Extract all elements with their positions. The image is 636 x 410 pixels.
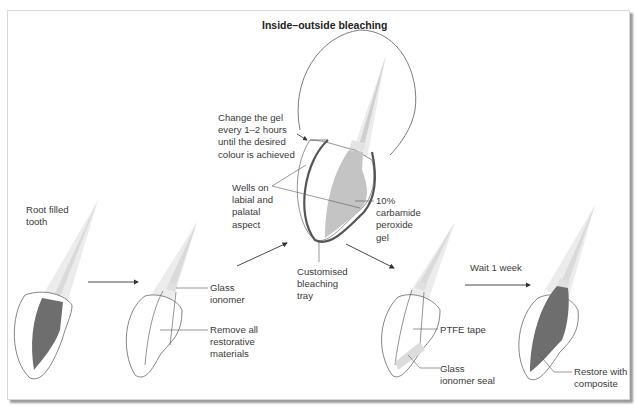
tooth-4-sealed xyxy=(382,222,455,377)
arrow-step-2 xyxy=(237,243,287,266)
label-root-filled-tooth: Root filled tooth xyxy=(26,204,69,228)
arrow-step-3 xyxy=(346,244,394,268)
label-ptfe-tape: PTFE tape xyxy=(440,324,486,336)
label-remove-restorative: Remove all restorative materials xyxy=(210,324,258,361)
label-carbamide-gel: 10% carbamide peroxide gel xyxy=(376,195,421,244)
label-change-gel: Change the gel every 1–2 hours until the… xyxy=(218,112,295,161)
tooth-2-prepared xyxy=(126,222,208,377)
label-glass-ionomer-seal: Glass ionomer seal xyxy=(440,363,495,387)
diagram-artwork xyxy=(0,0,636,410)
label-wait: Wait 1 week xyxy=(470,262,522,274)
label-glass-ionomer: Glass ionomer xyxy=(210,282,245,306)
label-customised-tray: Customised bleaching tray xyxy=(297,266,348,303)
tooth-5-restored xyxy=(519,205,595,380)
figure-title: Inside–outside bleaching xyxy=(262,19,387,31)
label-restore-composite: Restore with composite xyxy=(574,366,627,390)
label-wells: Wells on labial and palatal aspect xyxy=(232,182,273,231)
